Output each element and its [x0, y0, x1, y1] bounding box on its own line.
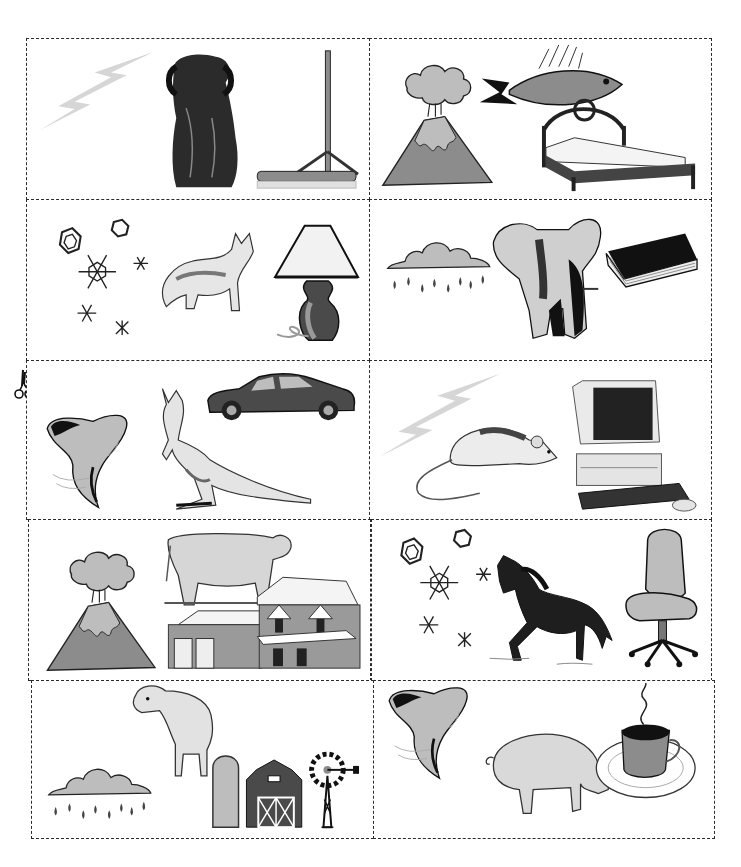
office-chair-icon — [626, 529, 698, 667]
fish-icon — [480, 45, 622, 105]
computer-icon — [573, 381, 696, 511]
card-lightning-mouse-computer[interactable]: lightning, mouse, computer — [369, 360, 712, 520]
broom-icon — [257, 51, 358, 188]
dog-icon — [169, 54, 238, 187]
rain-cloud-icon — [49, 769, 151, 819]
volcano-icon — [383, 66, 492, 186]
book-icon — [606, 234, 697, 287]
card-raincloud-sheep-farm[interactable]: rain cloud, sheep, farm barn — [31, 680, 374, 839]
snowflakes-icon — [401, 530, 491, 647]
bed-icon — [542, 100, 695, 191]
card-snowflakes-horse-chair[interactable]: snowflakes, horse, office chair — [371, 519, 712, 681]
rain-cloud-icon — [388, 243, 490, 293]
coffee-cup-icon — [596, 683, 695, 798]
silo-icon — [213, 756, 239, 827]
tornado-icon — [47, 415, 127, 507]
card-snowflakes-cat-lamp[interactable]: snowflakes, cat, lamp — [26, 199, 370, 361]
cat-icon — [162, 234, 253, 311]
card-raincloud-elephant-book[interactable]: rain cloud, elephant, book — [369, 199, 712, 361]
barn-icon — [246, 760, 301, 827]
snowflakes-icon — [60, 220, 148, 335]
card-tornado-kangaroo-car[interactable]: tornado, kangaroo, car — [26, 360, 370, 520]
mouse-icon — [417, 428, 557, 499]
horse-icon — [490, 556, 612, 665]
picture-card-sheet: lightning, dog, broom volcano, fish, bed — [0, 0, 741, 867]
card-tornado-pig-coffee[interactable]: tornado, pig, coffee cup — [373, 680, 715, 839]
pig-icon — [486, 734, 608, 813]
lightning-icon — [40, 52, 154, 130]
sheep-icon — [133, 686, 212, 776]
car-icon — [208, 374, 355, 420]
card-volcano-fish-bed[interactable]: volcano, fish, bed — [369, 38, 712, 200]
elephant-icon — [493, 219, 600, 338]
tornado-icon — [389, 688, 467, 778]
card-volcano-cow-house[interactable]: volcano, cow, house — [28, 519, 371, 681]
card-lightning-dog-broom[interactable]: lightning, dog, broom — [26, 38, 370, 200]
volcano-icon — [48, 552, 155, 670]
windmill-icon — [312, 754, 359, 827]
lamp-icon — [275, 226, 358, 341]
